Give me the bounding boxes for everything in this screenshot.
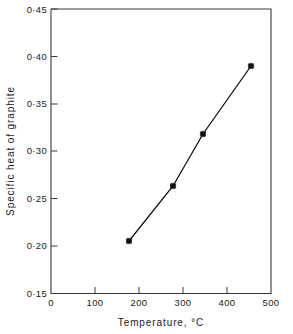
x-tick-label-0: 0: [48, 297, 54, 308]
data-point-marker: [170, 183, 175, 188]
data-series-specific-heat: [126, 63, 253, 243]
y-tick-label-0-35: 0·35: [27, 98, 47, 109]
specific-heat-line-chart: 0·15 0·20 0·25 0·30 0·35 0·40 0·45 0 100…: [0, 0, 293, 334]
y-tick-label-0-15: 0·15: [27, 288, 47, 299]
x-tick-label-400: 400: [219, 297, 236, 308]
chart-page: 0·15 0·20 0·25 0·30 0·35 0·40 0·45 0 100…: [0, 0, 293, 334]
x-tick-label-300: 300: [175, 297, 192, 308]
series-line: [129, 66, 251, 241]
x-axis-tick-labels: 0 100 200 300 400 500: [48, 297, 279, 308]
x-tick-label-500: 500: [263, 297, 280, 308]
x-axis-title: Temperature, °C: [118, 317, 204, 328]
y-tick-label-0-25: 0·25: [27, 193, 47, 204]
y-tick-label-0-45: 0·45: [27, 4, 47, 15]
plot-frame: [51, 9, 271, 294]
x-axis-ticks: [95, 287, 227, 294]
y-tick-label-0-40: 0·40: [27, 51, 47, 62]
x-tick-label-100: 100: [87, 297, 104, 308]
frame-border: [51, 9, 271, 294]
data-point-marker: [200, 131, 205, 136]
y-axis-ticks: [51, 9, 58, 294]
x-tick-label-200: 200: [131, 297, 148, 308]
y-axis-title: Specific heat of graphite: [5, 86, 16, 216]
y-axis-tick-labels: 0·15 0·20 0·25 0·30 0·35 0·40 0·45: [27, 4, 47, 299]
y-tick-label-0-20: 0·20: [27, 240, 47, 251]
data-point-marker: [248, 63, 253, 68]
y-tick-label-0-30: 0·30: [27, 145, 47, 156]
data-point-marker: [126, 238, 131, 243]
